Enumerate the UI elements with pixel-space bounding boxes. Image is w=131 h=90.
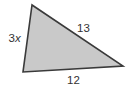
side-label-hypotenuse: 13: [77, 22, 90, 34]
side-label-bottom: 12: [67, 74, 80, 86]
side-label-left-variable: x: [14, 32, 22, 44]
triangle-shape: [23, 5, 123, 72]
side-label-left: 3x: [9, 32, 22, 44]
triangle-diagram: 3x 13 12: [0, 0, 131, 90]
